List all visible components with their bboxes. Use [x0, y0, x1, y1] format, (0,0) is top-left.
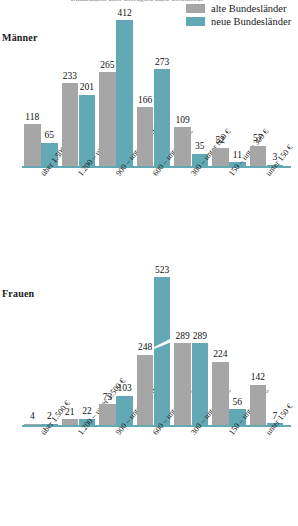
bar-value-label: 273 — [149, 58, 176, 68]
bar-alte — [212, 362, 229, 425]
chart-panel-maenner: 11865über 1.500 €2332011.200 – unter 1.5… — [0, 0, 298, 230]
bar-alte — [24, 424, 41, 425]
bar-value-label: 233 — [57, 72, 84, 82]
bar-value-label: 224 — [207, 350, 234, 360]
bar-alte — [62, 83, 79, 166]
bar-value-label: 412 — [111, 9, 138, 19]
chart-figure: Einkommen aller Befragten nach Geschlech… — [0, 0, 298, 526]
bar-value-label: 109 — [169, 116, 196, 126]
bar-neue — [154, 277, 171, 425]
bar-value-label: 65 — [36, 131, 63, 141]
bar-alte — [99, 72, 116, 166]
bar-alte — [62, 419, 79, 425]
bar-alte — [137, 355, 154, 425]
bar-value-label: 201 — [74, 83, 101, 93]
chart-panel-frauen: 42über 1.500 €21221.200 – unter 1.500 €7… — [0, 256, 298, 526]
bar-value-label: 52 — [207, 136, 234, 146]
bar-value-label: 103 — [111, 384, 138, 394]
bar-alte — [174, 343, 191, 425]
bar-alte — [99, 404, 116, 425]
bar-value-label: 142 — [245, 373, 272, 383]
bar-value-label: 289 — [187, 332, 214, 342]
bar-value-label: 118 — [19, 113, 46, 123]
bar-value-label: 523 — [149, 266, 176, 276]
bar-value-label: 57 — [245, 134, 272, 144]
bar-alte — [24, 124, 41, 166]
bar-neue — [116, 20, 133, 166]
bar-alte — [137, 107, 154, 166]
